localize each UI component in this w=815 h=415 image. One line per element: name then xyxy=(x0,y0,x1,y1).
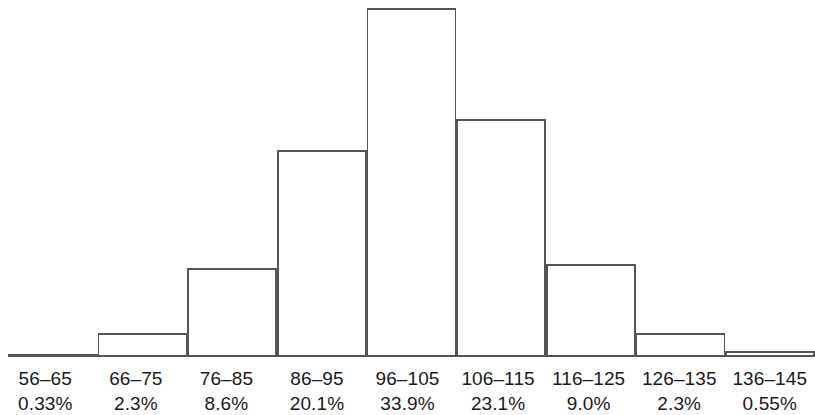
bin-percentage: 33.9% xyxy=(380,391,434,415)
bin-range: 76–85 xyxy=(200,366,253,391)
bin-label-7: 116–1259.0% xyxy=(543,360,634,415)
bin-percentage: 20.1% xyxy=(290,391,344,415)
histogram-bar xyxy=(278,151,366,356)
bin-label-5: 96–10533.9% xyxy=(362,360,453,415)
bin-range: 96–105 xyxy=(376,366,440,391)
bin-percentage: 0.33% xyxy=(18,391,72,415)
histogram-bar xyxy=(367,9,455,356)
bin-label-6: 106–11523.1% xyxy=(453,360,544,415)
histogram-bars xyxy=(0,0,815,360)
x-axis-labels: 56–650.33%66–752.3%76–858.6%86–9520.1%96… xyxy=(0,360,815,415)
bin-label-8: 126–1352.3% xyxy=(634,360,725,415)
bin-percentage: 0.55% xyxy=(743,391,797,415)
bin-range: 126–135 xyxy=(642,366,717,391)
histogram-bar xyxy=(9,354,97,356)
bin-label-9: 136–1450.55% xyxy=(725,360,815,415)
plot-area xyxy=(0,0,815,360)
histogram-bar xyxy=(188,269,276,356)
bin-range: 56–65 xyxy=(19,366,72,391)
bin-range: 86–95 xyxy=(290,366,343,391)
bin-percentage: 23.1% xyxy=(471,391,525,415)
bin-range: 66–75 xyxy=(109,366,162,391)
histogram-bar xyxy=(636,334,724,356)
bin-range: 116–125 xyxy=(552,366,625,391)
bin-label-2: 66–752.3% xyxy=(91,360,182,415)
histogram-bar xyxy=(726,352,814,356)
histogram-bar xyxy=(547,265,635,356)
bin-percentage: 9.0% xyxy=(567,391,611,415)
histogram-bar xyxy=(457,120,545,356)
bin-percentage: 2.3% xyxy=(114,391,158,415)
bin-percentage: 8.6% xyxy=(205,391,249,415)
bin-percentage: 2.3% xyxy=(657,391,701,415)
bin-range: 106–115 xyxy=(461,366,534,391)
bin-range: 136–145 xyxy=(732,366,807,391)
bin-label-1: 56–650.33% xyxy=(0,360,91,415)
histogram-bar xyxy=(98,334,186,356)
histogram-chart: 56–650.33%66–752.3%76–858.6%86–9520.1%96… xyxy=(0,0,815,415)
bin-label-4: 86–9520.1% xyxy=(272,360,363,415)
bin-label-3: 76–858.6% xyxy=(181,360,272,415)
